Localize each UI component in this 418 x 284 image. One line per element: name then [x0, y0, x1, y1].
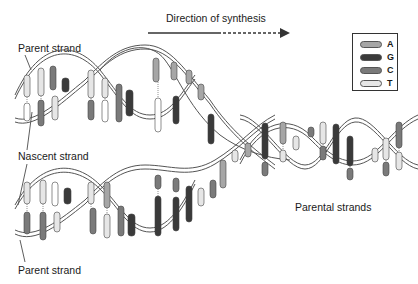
- legend-label-a: A: [387, 39, 394, 49]
- bottom-base-pairs: [24, 150, 238, 240]
- legend-label-c: C: [387, 65, 394, 75]
- legend-label-t: T: [387, 78, 393, 88]
- top-base-pairs: [24, 58, 214, 144]
- legend-label-g: G: [387, 52, 394, 62]
- base-t-swatch-icon: [360, 80, 382, 87]
- parental-base-pairs: [245, 122, 402, 180]
- legend-item-c: C: [360, 65, 394, 75]
- legend-item-t: T: [360, 78, 393, 88]
- legend-item-g: G: [360, 52, 394, 62]
- base-g-swatch-icon: [360, 54, 382, 61]
- base-c-swatch-icon: [360, 67, 382, 74]
- base-a-swatch-icon: [360, 41, 382, 48]
- legend-item-a: A: [360, 39, 394, 49]
- direction-arrow-icon: [148, 28, 290, 38]
- base-color-legend: A G C T: [352, 33, 398, 91]
